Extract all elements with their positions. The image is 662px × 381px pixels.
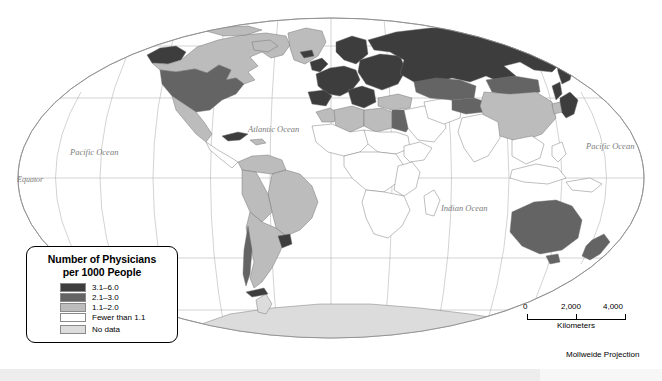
legend-swatch-1-1-to-2-0 bbox=[60, 303, 86, 312]
legend-label-no-data: No data bbox=[92, 325, 120, 334]
legend-title-line1: Number of Physicians bbox=[34, 253, 170, 266]
region-korea bbox=[552, 102, 562, 114]
legend-label-1-1-to-2-0: 1.1–2.0 bbox=[92, 303, 119, 312]
legend-label-2-1-to-3-0: 2.1–3.0 bbox=[92, 293, 119, 302]
ocean-label-pacific-west: Pacific Ocean bbox=[70, 147, 118, 157]
scalebar-tick-labels: 0 2,000 4,000 bbox=[525, 302, 635, 313]
legend-swatch-2-1-to-3-0 bbox=[60, 293, 86, 302]
projection-note: Mollweide Projection bbox=[566, 350, 639, 359]
scalebar-unit-label: Kilometers bbox=[525, 321, 627, 330]
world-map-figure: Pacific Ocean Pacific Ocean Atlantic Oce… bbox=[0, 0, 662, 381]
scalebar-tick-mark-1 bbox=[576, 314, 577, 320]
scalebar-tick-0: 0 bbox=[523, 302, 527, 311]
ocean-label-pacific-east: Pacific Ocean bbox=[586, 141, 634, 151]
scalebar-tick-2000: 2,000 bbox=[561, 302, 581, 311]
scalebar-tick-4000: 4,000 bbox=[603, 302, 623, 311]
legend-item-1-1-to-2-0: 1.1–2.0 bbox=[34, 303, 170, 312]
ocean-label-indian: Indian Ocean bbox=[441, 203, 488, 213]
legend-item-no-data: No data bbox=[34, 325, 170, 334]
legend-label-3-1-to-6-0: 3.1–6.0 bbox=[92, 283, 119, 292]
legend-title-line2: per 1000 People bbox=[34, 266, 170, 279]
legend-item-2-1-to-3-0: 2.1–3.0 bbox=[34, 293, 170, 302]
graticule-label-equator: Equator bbox=[17, 175, 43, 184]
legend-title: Number of Physicians per 1000 People bbox=[34, 253, 170, 278]
legend-swatch-3-1-to-6-0 bbox=[60, 283, 86, 292]
scalebar-tick-mark-2 bbox=[625, 314, 626, 320]
legend-swatch-fewer-than-1-1 bbox=[60, 313, 86, 322]
ocean-label-atlantic: Atlantic Ocean bbox=[248, 124, 299, 134]
scalebar-graphic bbox=[525, 314, 635, 321]
legend-label-fewer-than-1-1: Fewer than 1.1 bbox=[92, 313, 145, 322]
map-legend: Number of Physicians per 1000 People 3.1… bbox=[26, 246, 178, 343]
bottom-caption-strip-right bbox=[540, 369, 662, 381]
legend-item-fewer-than-1-1: Fewer than 1.1 bbox=[34, 313, 170, 322]
legend-item-3-1-to-6-0: 3.1–6.0 bbox=[34, 283, 170, 292]
scalebar-tick-mark-0 bbox=[527, 314, 528, 320]
legend-swatch-no-data bbox=[60, 325, 86, 334]
map-scalebar: 0 2,000 4,000 Kilometers bbox=[525, 302, 635, 330]
